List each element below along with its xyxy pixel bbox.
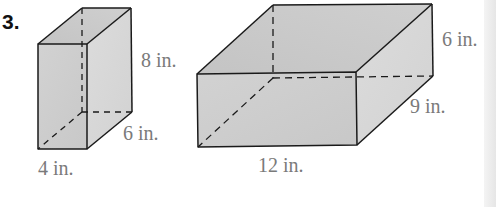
page-edge [484,0,496,207]
prism-a-front-face [38,44,87,149]
prism-b-depth-label: 9 in. [410,95,446,118]
prism-a-height-label: 8 in. [141,49,177,72]
prism-a [38,8,132,149]
prism-b-width-label: 12 in. [258,154,304,177]
prism-b-height-label: 6 in. [442,28,478,51]
prism-a-width-label: 4 in. [38,157,74,180]
prism-b [197,4,433,147]
prism-b-front-face [197,72,357,147]
prism-a-depth-label: 6 in. [123,122,159,145]
